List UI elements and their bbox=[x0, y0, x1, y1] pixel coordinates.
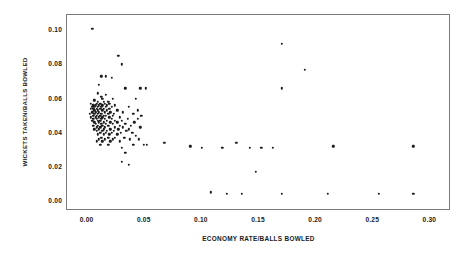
data-point bbox=[326, 193, 328, 195]
data-point bbox=[97, 92, 99, 94]
data-point bbox=[221, 147, 223, 149]
data-point bbox=[116, 121, 118, 123]
data-point bbox=[201, 147, 203, 149]
data-point bbox=[126, 118, 128, 120]
x-tick-label: 0.15 bbox=[238, 216, 278, 223]
scatter-plot-figure: WICKETS TAKEN/BALLS BOWLED 0.000.020.040… bbox=[0, 0, 470, 263]
data-point bbox=[98, 138, 100, 140]
data-point bbox=[132, 113, 134, 115]
data-point bbox=[89, 113, 91, 115]
data-point bbox=[113, 130, 115, 132]
data-point bbox=[110, 106, 112, 108]
x-tick-label: 0.25 bbox=[352, 216, 392, 223]
data-point bbox=[241, 193, 243, 195]
data-point bbox=[108, 108, 110, 110]
x-tick-label: 0.00 bbox=[67, 216, 107, 223]
data-point bbox=[110, 118, 112, 120]
y-axis-tick-labels: 0.000.020.040.060.080.10 bbox=[36, 14, 62, 210]
data-point bbox=[121, 147, 123, 149]
data-point bbox=[100, 75, 102, 77]
data-point bbox=[102, 133, 104, 135]
data-point bbox=[117, 55, 119, 57]
data-point bbox=[118, 125, 120, 127]
data-point bbox=[96, 140, 98, 142]
data-point bbox=[114, 137, 116, 139]
y-axis-title: WICKETS TAKEN/BALLS BOWLED bbox=[16, 12, 32, 212]
data-point bbox=[107, 143, 109, 145]
data-point bbox=[124, 123, 126, 125]
y-tick-label: 0.06 bbox=[36, 94, 62, 101]
data-point bbox=[118, 140, 120, 142]
data-point bbox=[109, 140, 111, 142]
data-point bbox=[412, 193, 414, 195]
data-point bbox=[112, 114, 114, 116]
data-point bbox=[98, 84, 100, 86]
data-point bbox=[97, 133, 99, 135]
data-point bbox=[99, 131, 101, 133]
data-point bbox=[412, 145, 414, 147]
data-point bbox=[121, 119, 123, 121]
data-point bbox=[101, 97, 103, 99]
data-point bbox=[108, 102, 110, 104]
data-point bbox=[189, 145, 191, 147]
data-point bbox=[117, 128, 119, 130]
data-point bbox=[332, 145, 334, 147]
data-point bbox=[210, 191, 212, 193]
data-point bbox=[98, 128, 100, 130]
data-point bbox=[124, 87, 126, 89]
data-point bbox=[134, 135, 136, 137]
data-point bbox=[116, 133, 118, 135]
data-point bbox=[132, 143, 134, 145]
x-axis-title: ECONOMY RATE/BALLS BOWLED bbox=[66, 235, 451, 242]
data-point bbox=[281, 87, 283, 89]
y-tick-label: 0.10 bbox=[36, 26, 62, 33]
data-point bbox=[260, 147, 262, 149]
data-point bbox=[128, 164, 130, 166]
data-point bbox=[121, 160, 123, 162]
y-tick-label: 0.08 bbox=[36, 60, 62, 67]
data-point bbox=[112, 123, 114, 125]
data-point bbox=[145, 87, 147, 89]
data-point bbox=[254, 171, 256, 173]
data-point bbox=[110, 131, 112, 133]
data-point bbox=[140, 114, 142, 116]
data-point bbox=[101, 130, 103, 132]
y-tick-label: 0.00 bbox=[36, 196, 62, 203]
data-point bbox=[112, 138, 114, 140]
data-point bbox=[139, 126, 141, 128]
data-point bbox=[124, 152, 126, 154]
data-point bbox=[109, 128, 111, 130]
data-point bbox=[281, 43, 283, 45]
data-point bbox=[105, 94, 107, 96]
data-point bbox=[96, 130, 98, 132]
data-point bbox=[109, 111, 111, 113]
data-point bbox=[226, 193, 228, 195]
data-point bbox=[100, 137, 102, 139]
data-point bbox=[110, 77, 112, 79]
data-point bbox=[146, 143, 148, 145]
data-point bbox=[107, 113, 109, 115]
data-point bbox=[121, 63, 123, 65]
data-point bbox=[130, 125, 132, 127]
x-tick-label: 0.05 bbox=[124, 216, 164, 223]
y-tick-label: 0.02 bbox=[36, 162, 62, 169]
data-point bbox=[235, 142, 237, 144]
data-point bbox=[106, 109, 108, 111]
y-tick-label: 0.04 bbox=[36, 128, 62, 135]
data-point bbox=[249, 147, 251, 149]
x-tick-label: 0.30 bbox=[409, 216, 449, 223]
data-point bbox=[106, 119, 108, 121]
data-point bbox=[105, 106, 107, 108]
data-point bbox=[129, 138, 131, 140]
data-point bbox=[104, 111, 106, 113]
data-point bbox=[281, 193, 283, 195]
data-point bbox=[137, 118, 139, 120]
data-point bbox=[112, 97, 114, 99]
data-point bbox=[107, 125, 109, 127]
data-point bbox=[99, 143, 101, 145]
data-point bbox=[93, 99, 95, 101]
data-point bbox=[128, 128, 130, 130]
data-point bbox=[104, 138, 106, 140]
data-point bbox=[139, 87, 141, 89]
data-points-layer bbox=[67, 15, 449, 209]
